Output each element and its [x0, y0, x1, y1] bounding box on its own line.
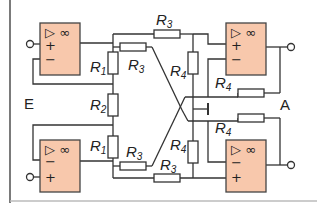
label-r4-bottom-vertical: R4 — [170, 136, 187, 155]
plus-sign: + — [231, 170, 242, 185]
output-label-a: A — [280, 96, 290, 113]
resistor-r3-top-diagonal — [120, 43, 146, 51]
resistor-r4-bottom-vertical — [188, 141, 198, 163]
minus-sign: − — [45, 52, 56, 67]
label-r3-top-diagonal: R3 — [128, 56, 145, 75]
circuit-diagram: ▷ ∞ + − ▷ ∞ − + ▷ ∞ + − ▷ ∞ − + R1 R2 R1… — [0, 0, 317, 207]
resistor-r3-bottom-diagonal — [120, 162, 146, 170]
minus-sign: − — [45, 154, 56, 169]
plus-sign: + — [45, 170, 56, 185]
input-terminal-top — [27, 41, 34, 48]
resistor-r3-top-horizontal — [154, 30, 180, 38]
label-r3-top-horizontal: R3 — [156, 11, 173, 30]
resistor-r1-top — [108, 52, 118, 74]
input-label-e: E — [24, 95, 34, 112]
label-r4-bottom-feedback: R4 — [215, 119, 232, 138]
resistor-r3-bottom-horizontal — [154, 174, 180, 182]
resistor-r4-top-vertical — [188, 52, 198, 74]
output-terminal-top — [288, 44, 295, 51]
resistor-r2 — [108, 94, 118, 116]
minus-sign: − — [231, 155, 242, 170]
resistor-r1-bottom — [108, 136, 118, 158]
resistor-r4-top-feedback — [238, 89, 264, 97]
label-r4-top-vertical: R4 — [170, 62, 187, 81]
label-r2: R2 — [90, 96, 107, 115]
label-r1-top: R1 — [90, 58, 106, 77]
minus-sign: − — [231, 52, 242, 67]
resistor-r4-bottom-feedback — [238, 114, 264, 122]
label-r1-bottom: R1 — [90, 137, 106, 156]
plus-sign: + — [45, 38, 56, 53]
label-r3-bottom-diagonal: R3 — [126, 143, 143, 162]
input-terminal-bottom — [27, 174, 34, 181]
plus-sign: + — [231, 38, 242, 53]
label-r4-top-feedback: R4 — [215, 74, 232, 93]
label-r3-bottom-horizontal: R3 — [160, 156, 177, 175]
output-terminal-bottom — [288, 162, 295, 169]
